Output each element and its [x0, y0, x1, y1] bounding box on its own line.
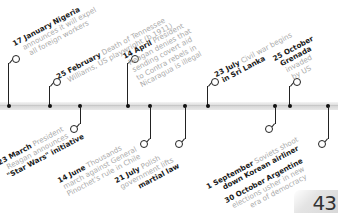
event-marker-ring: [265, 125, 273, 133]
connector-stem: [8, 63, 9, 106]
page-number-tab: 43: [294, 190, 338, 213]
page-number: 43: [313, 191, 336, 213]
timeline-dot: [48, 104, 52, 108]
connector-stem: [185, 106, 186, 139]
connector-stem: [127, 63, 128, 106]
connector-stem: [275, 106, 276, 124]
event-marker-ring: [318, 140, 326, 148]
connector-stem: [289, 86, 290, 106]
event-marker-ring: [175, 140, 183, 148]
connector-stem: [49, 86, 50, 106]
connector-stem: [328, 106, 329, 139]
event-label: 17 January Nigeria announces it will exp…: [11, 0, 101, 63]
connector-stem: [150, 106, 151, 139]
timeline-dot: [206, 104, 210, 108]
connector-stem: [80, 106, 81, 124]
timeline-dot: [7, 104, 11, 108]
timeline-dot: [288, 104, 292, 108]
timeline-dot: [126, 104, 130, 108]
event-marker-ring: [140, 140, 148, 148]
connector-stem: [207, 86, 208, 106]
